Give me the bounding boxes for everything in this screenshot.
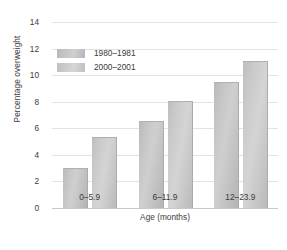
x-axis-category-label: 0–5.9 xyxy=(50,192,130,202)
y-axis-tick-label: 12 xyxy=(13,45,39,53)
y-axis-tick-label: 10 xyxy=(13,71,39,79)
legend-label: 1980–1981 xyxy=(94,48,136,58)
bar-20002001-12239 xyxy=(243,61,268,208)
x-axis-category-label: 6–11.9 xyxy=(125,192,205,202)
x-axis-category-label: 12–23.9 xyxy=(200,192,280,202)
y-axis-tick-label: 6 xyxy=(13,124,39,132)
legend-label: 2000–2001 xyxy=(94,62,136,72)
gridline xyxy=(52,208,278,209)
y-axis-tick-label: 2 xyxy=(13,177,39,185)
x-axis-title: Age (months) xyxy=(52,212,278,222)
y-axis-tick-label: 8 xyxy=(13,98,39,106)
y-axis-tick-label: 4 xyxy=(13,151,39,159)
y-axis-tick-label: 0 xyxy=(13,204,39,212)
legend-item: 1980–1981 xyxy=(57,47,136,59)
legend-item: 2000–2001 xyxy=(57,61,136,73)
chart-legend: 1980–19812000–2001 xyxy=(57,47,136,75)
bar-19801981-059 xyxy=(63,168,88,208)
y-axis-tick-label: 14 xyxy=(13,18,39,26)
gridline xyxy=(52,22,278,23)
bar-19801981-12239 xyxy=(214,82,239,208)
bar-chart: Percentage overweight 02468101214 1980–1… xyxy=(0,0,287,250)
legend-swatch xyxy=(57,49,85,58)
legend-swatch xyxy=(57,63,85,72)
